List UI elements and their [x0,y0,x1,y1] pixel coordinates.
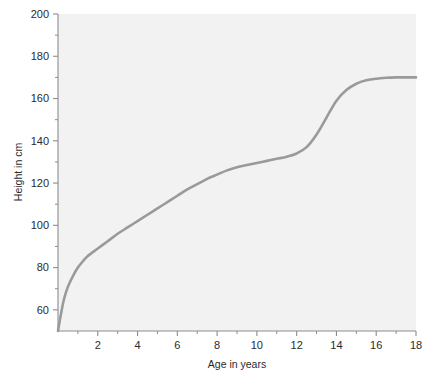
x-tick-label: 10 [251,339,263,351]
y-tick-label: 200 [31,8,49,20]
y-tick-label: 180 [31,50,49,62]
x-axis-major-ticks [98,331,416,336]
x-tick-label: 6 [174,339,180,351]
x-tick-label: 4 [134,339,140,351]
y-axis-tick-labels: 6080100120140160180200 [31,8,49,316]
x-tick-label: 12 [291,339,303,351]
x-tick-label: 16 [370,339,382,351]
plot-area-background [58,14,416,331]
x-tick-label: 8 [214,339,220,351]
x-tick-label: 18 [410,339,422,351]
y-axis-title: Height in cm [12,143,24,202]
x-tick-label: 14 [330,339,342,351]
y-tick-label: 60 [37,304,49,316]
y-tick-label: 100 [31,219,49,231]
x-axis-title: Age in years [208,358,266,370]
y-tick-label: 80 [37,261,49,273]
y-tick-label: 160 [31,92,49,104]
y-tick-label: 140 [31,135,49,147]
growth-chart-figure: 6080100120140160180200 24681012141618 Ag… [0,0,439,379]
x-axis-tick-labels: 24681012141618 [95,339,422,351]
x-tick-label: 2 [95,339,101,351]
y-tick-label: 120 [31,177,49,189]
chart-svg: 6080100120140160180200 24681012141618 Ag… [0,0,439,379]
